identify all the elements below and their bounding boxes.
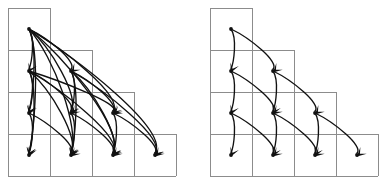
graph-edge bbox=[273, 113, 316, 153]
graph-node bbox=[27, 69, 31, 73]
graph-edge bbox=[29, 113, 72, 153]
graph-node bbox=[69, 69, 73, 73]
graph-edge bbox=[231, 29, 235, 69]
dense-staircase-graph-edges bbox=[26, 29, 164, 157]
graph-edge bbox=[231, 29, 274, 69]
graph-node bbox=[229, 153, 233, 157]
graph-edge bbox=[231, 71, 235, 111]
graph-node bbox=[271, 69, 275, 73]
graph-node bbox=[27, 27, 31, 31]
graph-node bbox=[229, 69, 233, 73]
graph-node bbox=[229, 111, 233, 115]
grid-layer bbox=[8, 8, 378, 176]
graph-node bbox=[229, 27, 233, 31]
edges-layer bbox=[26, 29, 366, 157]
graph-node bbox=[27, 153, 31, 157]
graph-node bbox=[313, 153, 317, 157]
graph-node bbox=[313, 111, 317, 115]
graph-node bbox=[271, 153, 275, 157]
graph-edge bbox=[231, 113, 235, 153]
graph-node bbox=[153, 153, 157, 157]
figure-root bbox=[0, 0, 380, 183]
graph-node bbox=[355, 153, 359, 157]
graph-edge bbox=[315, 113, 358, 153]
graph-edge bbox=[231, 113, 274, 153]
graph-node bbox=[111, 153, 115, 157]
sparse-staircase-graph-edges bbox=[230, 29, 366, 157]
graph-edge bbox=[29, 113, 33, 153]
graph-node bbox=[69, 111, 73, 115]
graph-node bbox=[111, 111, 115, 115]
sparse-staircase-graph-grid bbox=[210, 8, 378, 176]
graph-edge bbox=[231, 71, 274, 111]
diagram-canvas bbox=[0, 0, 380, 183]
graph-node bbox=[27, 111, 31, 115]
graph-edge bbox=[273, 71, 316, 111]
graph-node bbox=[69, 153, 73, 157]
graph-node bbox=[271, 111, 275, 115]
